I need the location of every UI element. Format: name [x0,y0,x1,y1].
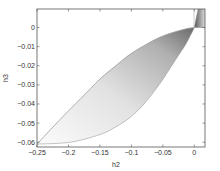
y-tick-label: −0.05 [17,120,35,127]
feasible-region-fill [37,28,194,145]
y-axis-label: h3 [2,74,9,82]
x-tick-label: −0.05 [154,149,172,156]
x-tick-label: −0.2 [62,149,76,156]
y-tick-label: −0.01 [17,43,35,50]
y-tick-label: −0.03 [17,81,35,88]
x-tick-label: 0 [192,149,196,156]
y-tick-label: −0.06 [17,139,35,146]
x-axis-label: h2 [112,161,120,168]
y-tick-label: −0.04 [17,100,35,107]
plot-area [37,9,205,144]
y-tick-label: −0.02 [17,62,35,69]
y-tick-label: 0 [31,24,35,31]
x-tick-label: −0.1 [124,149,138,156]
x-tick-label: −0.15 [91,149,109,156]
chart: −0.25−0.2−0.15−0.1−0.050 0−0.01−0.02−0.0… [0,0,220,171]
x-tick-label: −0.25 [28,149,46,156]
